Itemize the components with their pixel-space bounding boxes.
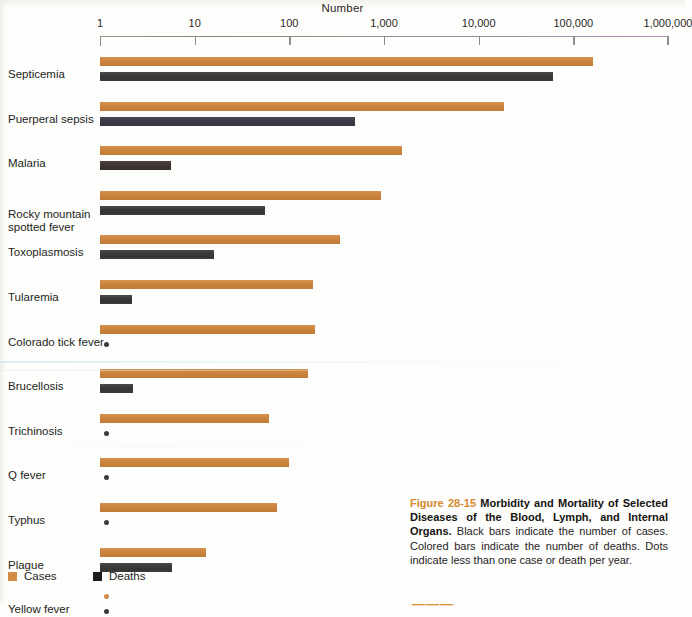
legend-label-deaths: Deaths	[109, 570, 145, 582]
deaths-dot-6	[104, 342, 109, 347]
deaths-dot-12	[104, 609, 109, 614]
row-label-0: Septicemia	[8, 68, 65, 82]
deaths-bar-3	[100, 206, 265, 215]
row-label-9: Q fever	[8, 469, 46, 483]
row-label-10: Typhus	[8, 514, 45, 528]
cases-dot-12	[104, 594, 109, 599]
deaths-dot-10	[104, 520, 109, 525]
cases-bar-8	[100, 414, 269, 423]
deaths-bar-5	[100, 295, 132, 304]
figure-caption: Figure 28-15 Morbidity and Mortality of …	[410, 496, 668, 567]
deaths-bar-7	[100, 384, 133, 393]
figure-number: Figure 28-15	[410, 497, 476, 509]
row-label-1: Puerperal sepsis	[8, 113, 94, 127]
deaths-dot-8	[104, 431, 109, 436]
legend-swatch-deaths-icon	[93, 572, 102, 581]
cases-bar-9	[100, 458, 289, 467]
cases-bar-5	[100, 280, 313, 289]
row-label-5: Tularemia	[8, 291, 59, 305]
row-label-12: Yellow fever	[8, 603, 70, 617]
cases-bar-7	[100, 369, 308, 378]
deaths-bar-4	[100, 250, 214, 259]
cases-bar-3	[100, 191, 381, 200]
row-label-7: Brucellosis	[8, 380, 64, 394]
legend-swatch-cases-icon	[8, 572, 17, 581]
cases-bar-10	[100, 503, 277, 512]
legend-label-cases: Cases	[24, 570, 57, 582]
deaths-bar-1	[100, 117, 355, 126]
cases-bar-0	[100, 57, 593, 66]
row-label-2: Malaria	[8, 157, 46, 171]
cases-bar-6	[100, 325, 315, 334]
row-label-8: Trichinosis	[8, 425, 63, 439]
row-label-6: Colorado tick fever	[8, 336, 104, 350]
cases-bar-2	[100, 146, 402, 155]
row-label-4: Toxoplasmosis	[8, 246, 83, 260]
deaths-dot-9	[104, 475, 109, 480]
cases-bar-4	[100, 235, 340, 244]
cases-bar-1	[100, 102, 504, 111]
page-bottom-mark: ———	[412, 596, 454, 611]
deaths-bar-2	[100, 161, 171, 170]
row-label-3: Rocky mountain spotted fever	[8, 208, 90, 235]
deaths-bar-0	[100, 72, 553, 81]
cases-bar-11	[100, 548, 206, 557]
